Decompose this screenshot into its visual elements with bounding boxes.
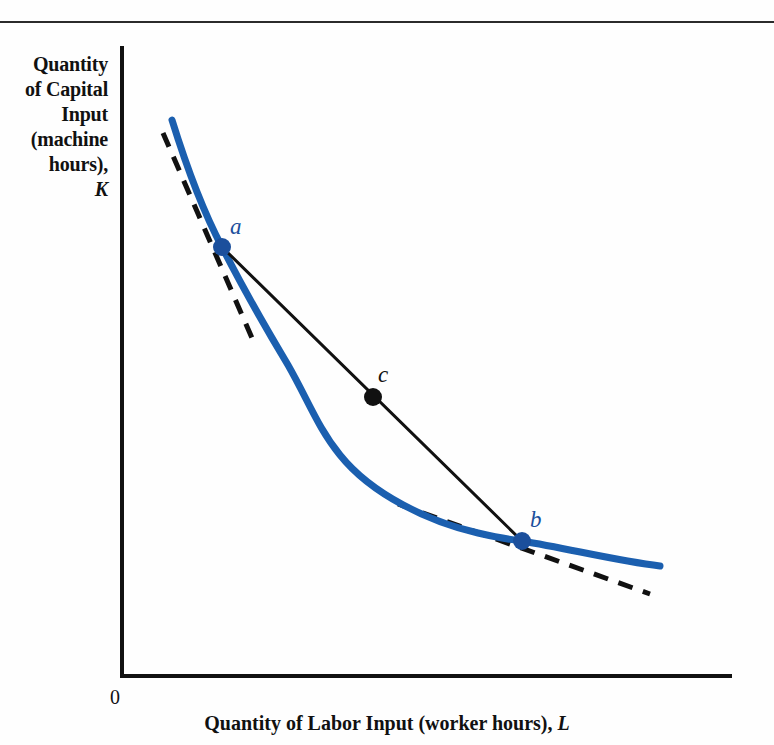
x-axis-label: Quantity of Labor Input (worker hours), … xyxy=(0,712,774,735)
isoquant-curve xyxy=(172,120,660,566)
x-axis-symbol: L xyxy=(557,712,569,734)
point-marker-c xyxy=(364,388,382,406)
y-axis-label: Quantity of Capital Input (machine hours… xyxy=(4,52,108,202)
y-axis-label-line-4: (machine xyxy=(4,127,108,152)
origin-label: 0 xyxy=(110,686,120,709)
y-axis-label-line-1: Quantity xyxy=(4,52,108,77)
y-axis-label-line-2: of Capital xyxy=(4,77,108,102)
point-marker-b xyxy=(513,532,531,550)
y-axis-label-line-5: hours), xyxy=(4,152,108,177)
y-axis-symbol: K xyxy=(4,177,108,202)
isoquant-figure: Quantity of Capital Input (machine hours… xyxy=(0,0,774,745)
point-label-c: c xyxy=(378,362,388,388)
x-axis-label-text: Quantity of Labor Input (worker hours), xyxy=(204,712,552,734)
y-axis-label-line-3: Input xyxy=(4,102,108,127)
point-label-a: a xyxy=(230,214,242,240)
point-label-b: b xyxy=(530,507,542,533)
point-marker-a xyxy=(213,238,231,256)
